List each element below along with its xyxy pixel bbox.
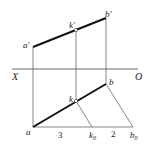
label-b: b	[109, 77, 114, 87]
projection-diagram: X O a′ k′ b′ b k a k0 b0 3 2	[0, 0, 155, 150]
top-view-segment-ab	[33, 84, 106, 127]
ratio-label-3: 3	[58, 130, 63, 140]
ratio-label-2: 2	[111, 129, 116, 139]
label-k-prime: k′	[69, 20, 76, 30]
point-k-marker	[74, 99, 77, 102]
label-x: X	[11, 71, 19, 82]
label-a-prime: a′	[23, 40, 31, 50]
label-o: O	[135, 71, 142, 82]
label-b0: b0	[130, 130, 138, 141]
label-a: a	[26, 127, 31, 137]
label-b-prime: b′	[105, 9, 113, 19]
diagram-canvas: X O a′ k′ b′ b k a k0 b0 3 2	[0, 0, 155, 150]
label-k0: k0	[89, 130, 96, 141]
parallel-line-k-k0	[76, 101, 92, 127]
parallel-line-b-b0	[106, 84, 133, 127]
